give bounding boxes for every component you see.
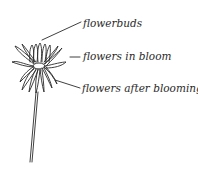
leader-line-flowerbuds bbox=[42, 22, 81, 40]
label-flowers-after-blooming: flowers after blooming bbox=[82, 83, 198, 94]
flowers-in-bloom-cluster bbox=[12, 44, 66, 68]
stem bbox=[30, 92, 38, 162]
receptacle bbox=[33, 63, 45, 69]
label-flowers-in-bloom: flowers in bloom bbox=[83, 51, 171, 62]
leader-line-after-blooming bbox=[55, 80, 80, 88]
label-flowerbuds: flowerbuds bbox=[83, 18, 142, 29]
flowers-after-blooming-cluster bbox=[20, 67, 57, 93]
